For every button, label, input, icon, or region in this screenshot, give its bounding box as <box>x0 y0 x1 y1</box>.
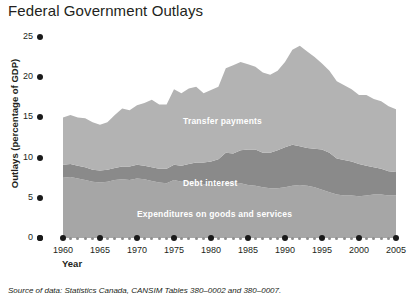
x-minor-tick-marker <box>158 237 161 240</box>
x-minor-tick-marker <box>121 237 124 240</box>
x-tick-marker <box>356 235 362 241</box>
x-tick-label: 1995 <box>304 246 340 255</box>
x-minor-tick-marker <box>224 237 227 240</box>
source-note: Source of data: Statistics Canada, CANSI… <box>8 286 281 295</box>
x-minor-tick-marker <box>372 237 375 240</box>
x-minor-tick-marker <box>128 237 131 240</box>
x-minor-tick-marker <box>350 237 353 240</box>
x-minor-tick-marker <box>106 237 109 240</box>
x-tick-marker <box>393 235 399 241</box>
series-label-expenditures: Expenditures on goods and services <box>137 209 292 219</box>
x-minor-tick-marker <box>254 237 257 240</box>
x-minor-tick-marker <box>328 237 331 240</box>
x-tick-label: 1975 <box>156 246 192 255</box>
area-transfer <box>63 46 396 172</box>
x-tick-marker <box>60 235 66 241</box>
x-minor-tick-marker <box>291 237 294 240</box>
x-minor-tick-marker <box>76 237 79 240</box>
x-minor-tick-marker <box>84 237 87 240</box>
x-axis-title: Year <box>62 258 82 269</box>
y-tick-marker <box>37 34 43 40</box>
series-label-debt-interest: Debt interest <box>183 178 238 188</box>
chart-figure: Federal Government Outlays 0510152025 19… <box>0 0 419 306</box>
x-tick-marker <box>208 235 214 241</box>
y-axis-title: Outlays (percentage of GDP) <box>9 49 20 199</box>
x-minor-tick-marker <box>380 237 383 240</box>
x-minor-tick-marker <box>335 237 338 240</box>
x-minor-tick-marker <box>387 237 390 240</box>
x-minor-tick-marker <box>195 237 198 240</box>
x-tick-label: 2000 <box>341 246 377 255</box>
x-minor-tick-marker <box>269 237 272 240</box>
x-minor-tick-marker <box>261 237 264 240</box>
x-minor-tick-marker <box>187 237 190 240</box>
x-minor-tick-marker <box>143 237 146 240</box>
x-minor-tick-marker <box>150 237 153 240</box>
x-minor-tick-marker <box>298 237 301 240</box>
x-minor-tick-marker <box>313 237 316 240</box>
x-tick-label: 1970 <box>119 246 155 255</box>
x-tick-marker <box>245 235 251 241</box>
x-minor-tick-marker <box>202 237 205 240</box>
x-tick-label: 1990 <box>267 246 303 255</box>
x-minor-tick-marker <box>91 237 94 240</box>
y-tick-label: 0 <box>11 233 33 242</box>
series-label-transfer: Transfer payments <box>183 116 262 126</box>
y-tick-marker <box>37 195 43 201</box>
origin-marker <box>37 235 43 241</box>
x-tick-label: 1980 <box>193 246 229 255</box>
x-tick-label: 1985 <box>230 246 266 255</box>
x-minor-tick-marker <box>113 237 116 240</box>
y-tick-label: 25 <box>11 32 33 41</box>
x-tick-marker <box>171 235 177 241</box>
x-tick-label: 1960 <box>45 246 81 255</box>
x-minor-tick-marker <box>306 237 309 240</box>
x-minor-tick-marker <box>276 237 279 240</box>
x-minor-tick-marker <box>232 237 235 240</box>
x-tick-label: 2005 <box>378 246 414 255</box>
x-minor-tick-marker <box>180 237 183 240</box>
x-tick-marker <box>282 235 288 241</box>
x-minor-tick-marker <box>365 237 368 240</box>
x-tick-marker <box>97 235 103 241</box>
y-tick-marker <box>37 155 43 161</box>
x-minor-tick-marker <box>217 237 220 240</box>
x-tick-marker <box>319 235 325 241</box>
x-minor-tick-marker <box>165 237 168 240</box>
x-minor-tick-marker <box>69 237 72 240</box>
x-minor-tick-marker <box>343 237 346 240</box>
x-minor-tick-marker <box>239 237 242 240</box>
x-tick-label: 1965 <box>82 246 118 255</box>
x-tick-marker <box>134 235 140 241</box>
